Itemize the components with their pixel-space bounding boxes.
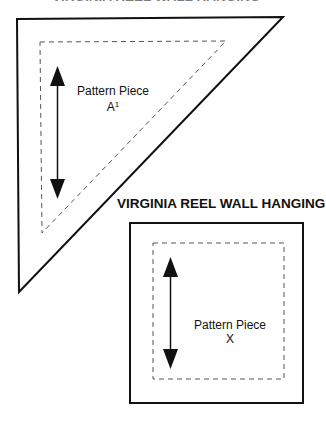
- piece-a1-superscript: 1: [115, 100, 119, 109]
- project-title: VIRGINIA REEL WALL HANGING: [117, 196, 325, 211]
- piece-x-label-line1: Pattern Piece: [185, 318, 275, 332]
- piece-a1-label-line2: A1: [68, 98, 158, 114]
- pattern-piece-x: [130, 223, 303, 403]
- grain-arrow-icon: [163, 257, 178, 369]
- pattern-piece-a1: [17, 17, 283, 292]
- grain-arrow-icon: [50, 66, 65, 199]
- piece-a1-label-line1: Pattern Piece: [68, 84, 158, 98]
- piece-x-label: Pattern Piece X: [185, 318, 275, 346]
- square-cut-line: [130, 223, 303, 403]
- piece-x-label-line2: X: [185, 332, 275, 346]
- piece-a1-label: Pattern Piece A1: [68, 84, 158, 114]
